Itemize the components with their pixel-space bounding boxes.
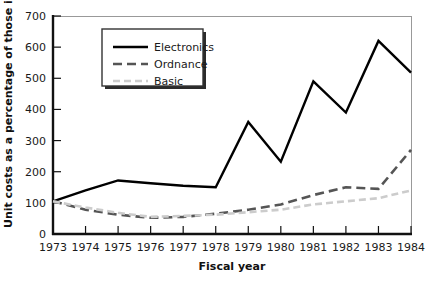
y-tick-label: 400 (25, 103, 46, 116)
x-tick-label: 1980 (267, 241, 295, 254)
y-tick-label: 500 (25, 72, 46, 85)
x-tick-label: 1976 (137, 241, 165, 254)
x-axis-title: Fiscal year (199, 260, 266, 273)
chart-container: 0100200300400500600700 19731974197519761… (0, 0, 429, 281)
y-axis-title: Unit costs as a percentage of those in F… (2, 0, 15, 228)
x-tick-label: 1981 (299, 241, 327, 254)
x-tick-label: 1978 (202, 241, 230, 254)
chart-legend[interactable]: ElectronicsOrdnanceBasic (102, 29, 214, 89)
y-tick-label: 0 (39, 228, 46, 241)
y-tick-label: 300 (25, 135, 46, 148)
legend-label-basic: Basic (154, 75, 183, 88)
y-tick-label: 100 (25, 197, 46, 210)
x-tick-label: 1975 (104, 241, 132, 254)
y-tick-label: 600 (25, 41, 46, 54)
y-tick-label: 700 (25, 10, 46, 23)
x-tick-label: 1973 (39, 241, 67, 254)
y-tick-label: 200 (25, 166, 46, 179)
x-tick-label: 1974 (72, 241, 100, 254)
line-chart: 0100200300400500600700 19731974197519761… (0, 0, 429, 281)
x-tick-label: 1977 (169, 241, 197, 254)
x-tick-label: 1982 (332, 241, 360, 254)
x-tick-label: 1984 (397, 241, 425, 254)
legend-label-electronics: Electronics (154, 41, 214, 54)
chart-background (0, 0, 429, 281)
x-tick-label: 1983 (364, 241, 392, 254)
legend-label-ordnance: Ordnance (154, 58, 208, 71)
x-tick-label: 1979 (234, 241, 262, 254)
